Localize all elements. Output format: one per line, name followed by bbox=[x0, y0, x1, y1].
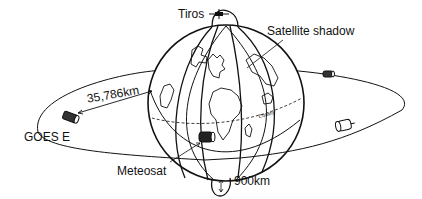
meteosat-label: Meteosat bbox=[117, 165, 166, 177]
goes-e-label: GOES E bbox=[24, 131, 70, 143]
geo-satellite-east-near-icon bbox=[335, 118, 356, 132]
goes-e-satellite-icon bbox=[62, 111, 80, 124]
satellite-orbit-diagram bbox=[0, 0, 422, 199]
altitude-label: 900km bbox=[234, 175, 270, 187]
meteosat-satellite-icon bbox=[199, 132, 215, 142]
tiros-label: Tiros bbox=[178, 8, 204, 20]
satellite-shadow-label: Satellite shadow bbox=[267, 25, 354, 37]
geo-satellite-east-far-icon bbox=[323, 71, 335, 77]
